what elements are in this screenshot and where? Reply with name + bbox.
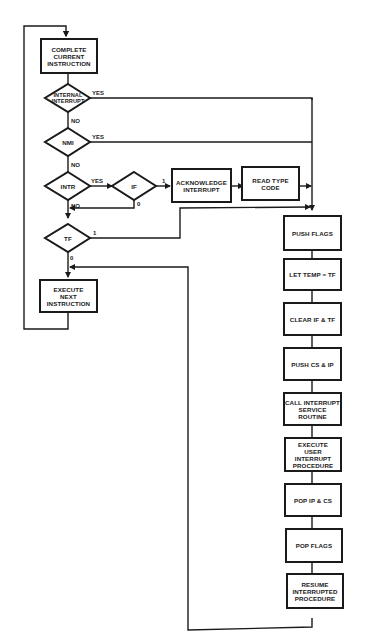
tf-label-wrap: TF [45,224,91,252]
intr-no-label: NO [71,203,80,209]
node-label: CALL INTERRUPT SERVICE ROUTINE [285,399,340,420]
node-label: EXECUTE USER INTERRUPT PROCEDURE [286,441,340,469]
node-label: READ TYPE CODE [252,177,288,191]
call-interrupt-service-routine-box: CALL INTERRUPT SERVICE ROUTINE [283,392,342,426]
internal-yes-label: YES [92,90,104,96]
internal-interrupt-label-wrap: INTERNAL INTERRUPT [45,84,91,112]
nmi-no-label: NO [71,162,80,168]
push-flags-box: PUSH FLAGS [283,215,342,251]
pop-flags-box: POP FLAGS [285,528,343,563]
node-label: IF [131,183,137,190]
node-label: EXECUTE NEXT INSTRUCTION [47,286,90,307]
intr-yes-label: YES [91,178,103,184]
complete-current-instruction-box: COMPLETE CURRENT INSTRUCTION [40,38,98,74]
nmi-label-wrap: NMI [45,128,91,156]
clear-if-tf-box: CLEAR IF & TF [283,302,342,336]
tf-1-label: 1 [93,230,96,236]
node-label: ACKNOWLEDGE INTERRUPT [176,179,227,193]
intr-label-wrap: INTR [45,172,91,200]
node-label: POP IP & CS [294,497,332,504]
pop-ip-cs-box: POP IP & CS [284,483,342,517]
internal-no-label: NO [71,118,80,124]
if-label-wrap: IF [112,172,156,200]
push-cs-ip-box: PUSH CS & IP [283,347,342,381]
node-label: PUSH FLAGS [292,230,333,237]
read-type-code-box: READ TYPE CODE [241,166,300,201]
tf-0-label: 0 [70,255,73,261]
node-label: LET TEMP = TF [289,271,335,278]
if-1-label: 1 [162,178,165,184]
resume-interrupted-procedure-box: RESUME INTERRUPTED PROCEDURE [286,573,344,609]
node-label: TF [64,235,72,242]
execute-user-interrupt-procedure-box: EXECUTE USER INTERRUPT PROCEDURE [284,437,342,472]
if-0-label: 0 [137,201,140,207]
nmi-yes-label: YES [92,134,104,140]
node-label: POP FLAGS [296,542,333,549]
node-label: NMI [62,139,74,146]
execute-next-instruction-box: EXECUTE NEXT INSTRUCTION [39,279,98,313]
node-label: INTERNAL INTERRUPT [52,92,85,104]
node-label: RESUME INTERRUPTED PROCEDURE [292,581,337,602]
node-label: CLEAR IF & TF [290,316,335,323]
let-temp-tf-box: LET TEMP = TF [283,258,342,291]
node-label: COMPLETE CURRENT INSTRUCTION [47,46,90,67]
node-label: INTR [61,183,76,190]
node-label: PUSH CS & IP [291,361,333,368]
acknowledge-interrupt-box: ACKNOWLEDGE INTERRUPT [171,168,232,203]
